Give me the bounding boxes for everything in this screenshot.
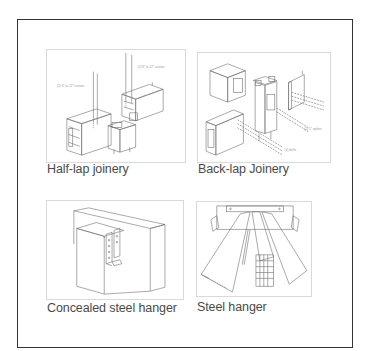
panel-half-lap: (2) 8" to 12" screws (2) 8" to 12" screw…: [46, 49, 186, 179]
caption-back-lap: Back-lap Joinery: [198, 162, 289, 176]
annotation-screws-left: (2) 8" to 12" screws: [57, 84, 84, 88]
annotation-screws-right: (2) 8" to 12" screws: [138, 65, 165, 69]
annotation-drifts: (4) drifts: [285, 148, 297, 152]
steel-hanger-illustration: [196, 201, 312, 297]
panel-back-lap: (2) 5" spikes (4) drifts Back-lap Joiner…: [197, 52, 331, 180]
panel-steel-hanger: Steel hanger: [196, 201, 314, 319]
half-lap-joinery-illustration: (2) 8" to 12" screws (2) 8" to 12" screw…: [46, 49, 186, 163]
back-lap-joinery-illustration: (2) 5" spikes (4) drifts: [197, 52, 331, 163]
annotation-spikes: (2) 5" spikes: [304, 127, 322, 131]
concealed-steel-hanger-diagram: [47, 201, 183, 299]
half-lap-joinery-diagram: (2) 8" to 12" screws (2) 8" to 12" screw…: [47, 50, 185, 162]
panel-concealed-hanger: Concealed steel hanger: [46, 200, 186, 318]
caption-steel-hanger: Steel hanger: [197, 300, 267, 314]
concealed-steel-hanger-illustration: [46, 200, 184, 300]
back-lap-joinery-diagram: (2) 5" spikes (4) drifts: [198, 53, 330, 162]
caption-concealed-hanger: Concealed steel hanger: [47, 301, 177, 315]
steel-hanger-diagram: [197, 202, 311, 296]
caption-half-lap: Half-lap joinery: [47, 162, 129, 176]
